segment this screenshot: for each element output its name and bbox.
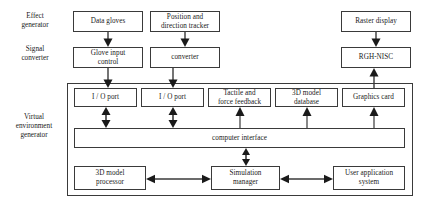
node-3d-model-processor[interactable]: 3D model processor (74, 166, 146, 190)
node-io-port-1-label: I / O port (92, 93, 119, 102)
node-converter-label: converter (171, 53, 199, 62)
arrow-io-port-1-to-computer-interface (100, 107, 112, 128)
side-label-virtual-environment-generator-line1: Virtual (2, 113, 66, 122)
node-tactile-force-feedback[interactable]: Tactile and force feedback (208, 88, 271, 107)
node-converter[interactable]: converter (150, 47, 220, 68)
node-tactile-force-feedback-line1: Tactile and (223, 89, 255, 98)
side-label-signal-converter-line1: Signal (6, 45, 64, 54)
arrow-position-tracker-to-converter (179, 32, 191, 47)
node-position-direction-tracker-line1: Position and (167, 13, 203, 22)
node-user-application-system-line1: User application (345, 169, 393, 178)
arrow-computer-interface-to-tactile-force-feedback (234, 107, 246, 128)
node-raster-display[interactable]: Raster display (341, 11, 411, 32)
arrow-simulation-manager-to-user-application-system (280, 173, 333, 185)
node-position-direction-tracker[interactable]: Position and direction tracker (150, 11, 220, 32)
arrow-data-gloves-to-glove-input-control (102, 32, 114, 47)
arrow-computer-interface-to-simulation-manager (240, 148, 252, 166)
side-label-effect-generator: Effect generator (6, 12, 64, 30)
node-simulation-manager-line1: Simulation (229, 169, 261, 178)
node-position-direction-tracker-line2: direction tracker (161, 22, 209, 31)
side-label-signal-converter: Signal converter (6, 45, 64, 63)
node-tactile-force-feedback-line2: force feedback (218, 98, 261, 107)
node-data-gloves-label: Data gloves (91, 17, 126, 26)
node-simulation-manager-line2: manager (233, 178, 258, 187)
node-io-port-1[interactable]: I / O port (74, 88, 137, 107)
node-computer-interface[interactable]: computer interface (74, 128, 405, 148)
side-label-signal-converter-line2: converter (6, 54, 64, 63)
arrow-3d-model-processor-to-simulation-manager (146, 173, 211, 185)
arrow-converter-to-io-port-2 (167, 68, 179, 88)
arrow-computer-interface-to-graphics-card (368, 107, 380, 128)
node-io-port-2-label: I / O port (159, 93, 186, 102)
node-data-gloves[interactable]: Data gloves (73, 11, 143, 32)
arrow-graphics-card-to-rgh-nisc (368, 68, 380, 88)
arrow-io-port-2-to-computer-interface (167, 107, 179, 128)
node-3d-model-processor-line2: processor (96, 178, 124, 187)
node-io-port-2[interactable]: I / O port (141, 88, 204, 107)
node-3d-model-processor-line1: 3D model (96, 169, 125, 178)
arrow-glove-input-control-to-io-port-1 (102, 68, 114, 88)
node-rgh-nisc-label: RGH-NISC (359, 53, 393, 62)
node-3d-model-database-line1: 3D model (292, 89, 321, 98)
node-3d-model-database-line2: database (294, 98, 319, 107)
node-glove-input-control[interactable]: Glove input control (73, 47, 143, 68)
node-graphics-card[interactable]: Graphics card (342, 88, 405, 107)
node-rgh-nisc[interactable]: RGH-NISC (341, 47, 411, 68)
arrow-raster-display-to-rgh-nisc (370, 32, 382, 47)
node-3d-model-database[interactable]: 3D model database (275, 88, 338, 107)
node-raster-display-label: Raster display (355, 17, 397, 26)
arrow-computer-interface-to-3d-model-database (301, 107, 313, 128)
node-user-application-system[interactable]: User application system (333, 166, 405, 190)
side-label-virtual-environment-generator-line3: generator (2, 131, 66, 140)
block-diagram: Effect generator Signal converter Virtua… (0, 0, 422, 206)
side-label-virtual-environment-generator-line2: environment (2, 122, 66, 131)
node-simulation-manager[interactable]: Simulation manager (211, 166, 280, 190)
side-label-virtual-environment-generator: Virtual environment generator (2, 113, 66, 141)
side-label-effect-generator-line1: Effect (6, 12, 64, 21)
node-graphics-card-label: Graphics card (353, 93, 394, 102)
node-glove-input-control-line2: control (98, 58, 119, 67)
node-computer-interface-label: computer interface (212, 134, 267, 143)
node-user-application-system-line2: system (359, 178, 379, 187)
side-label-effect-generator-line2: generator (6, 21, 64, 30)
node-glove-input-control-line1: Glove input (91, 49, 126, 58)
